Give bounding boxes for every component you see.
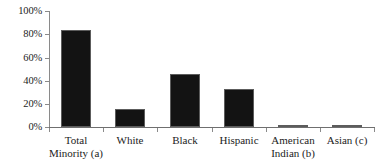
bar-black [170, 74, 200, 127]
x-axis-category-label: White [100, 134, 160, 147]
y-axis-tick [45, 11, 50, 12]
y-axis-tick [45, 34, 50, 35]
y-axis-tick-label: 20% [2, 99, 42, 110]
y-axis-line [49, 11, 50, 128]
x-axis-tick [212, 128, 213, 132]
y-axis-tick-label: 0% [2, 122, 42, 133]
x-axis-category-label: Hispanic [209, 134, 269, 147]
bar-asian [332, 125, 362, 127]
x-axis-tick [49, 128, 50, 132]
y-axis-tick [45, 104, 50, 105]
bar-hispanic [224, 89, 254, 127]
x-axis-category-label: American Indian (b) [263, 134, 323, 160]
bar-white [115, 109, 145, 127]
x-axis-tick [320, 128, 321, 132]
y-axis-tick-label: 80% [2, 29, 42, 40]
y-axis-tick [45, 81, 50, 82]
x-axis-tick [374, 128, 375, 132]
x-axis-tick [266, 128, 267, 132]
x-axis-tick [157, 128, 158, 132]
y-axis-tick-label: 40% [2, 76, 42, 87]
x-axis-category-label: Total Minority (a) [46, 134, 106, 160]
y-axis-tick [45, 58, 50, 59]
bar-american-indian [278, 125, 308, 127]
bar-total-minority [61, 30, 91, 127]
y-axis-tick-label: 100% [2, 6, 42, 17]
x-axis-category-label: Black [155, 134, 215, 147]
x-axis-tick [103, 128, 104, 132]
y-axis-tick-label: 60% [2, 53, 42, 64]
bar-chart: 100% 80% 60% 40% 20% 0% Total Minority (… [0, 0, 384, 167]
x-axis-category-label: Asian (c) [317, 134, 377, 147]
